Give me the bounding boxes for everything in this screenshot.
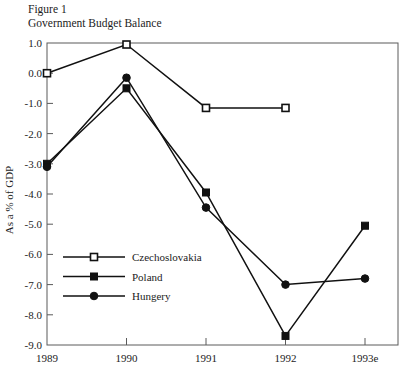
y-tick-label: -3.0 <box>25 158 43 170</box>
chart-legend: CzechoslovakiaPolandHungery <box>63 251 202 302</box>
y-tick-label: -5.0 <box>25 218 43 230</box>
marker-filled-square <box>91 273 98 280</box>
y-axis-title-label: As a % of GDP <box>3 166 15 234</box>
legend-label: Poland <box>132 271 163 283</box>
x-tick-label: 1992 <box>275 352 297 364</box>
x-tick-label: 1990 <box>116 352 139 364</box>
line-chart: 1.00.0-1.0-2.0-3.0-4.0-5.0-6.0-7.0-8.0-9… <box>0 0 405 375</box>
x-axis-ticks: 19891990199119921993e <box>36 338 379 364</box>
marker-filled-square <box>362 222 369 229</box>
marker-filled-circle <box>202 204 210 212</box>
series-line <box>47 45 286 108</box>
marker-filled-circle <box>282 281 290 289</box>
x-tick-label: 1993e <box>352 352 379 364</box>
y-axis-title: As a % of GDP <box>3 166 15 234</box>
marker-filled-circle <box>90 292 98 300</box>
legend-item-hungery: Hungery <box>63 290 171 302</box>
marker-open-square <box>203 104 210 111</box>
legend-item-poland: Poland <box>63 271 163 283</box>
y-tick-label: -2.0 <box>25 128 43 140</box>
y-tick-label: 0.0 <box>28 67 42 79</box>
figure-number: Figure 1 <box>28 2 162 16</box>
figure-caption: Figure 1 Government Budget Balance <box>28 2 162 30</box>
marker-filled-circle <box>43 163 51 171</box>
legend-item-czechoslovakia: Czechoslovakia <box>63 251 202 263</box>
plot-frame <box>47 43 398 345</box>
marker-filled-circle <box>123 74 131 82</box>
marker-open-square <box>91 254 98 261</box>
series-poland <box>44 85 369 340</box>
plot-border <box>47 43 398 345</box>
figure-title: Government Budget Balance <box>28 16 162 30</box>
marker-open-square <box>282 104 289 111</box>
y-tick-label: -9.0 <box>25 339 43 351</box>
marker-filled-circle <box>361 275 369 283</box>
series-czechoslovakia <box>44 41 290 111</box>
marker-open-square <box>123 41 130 48</box>
marker-filled-square <box>282 332 289 339</box>
y-tick-label: 1.0 <box>28 37 42 49</box>
marker-filled-square <box>203 189 210 196</box>
y-tick-label: -7.0 <box>25 279 43 291</box>
x-tick-label: 1991 <box>195 352 217 364</box>
marker-filled-square <box>123 85 130 92</box>
figure-container: Figure 1 Government Budget Balance 1.00.… <box>0 0 405 375</box>
y-tick-label: -1.0 <box>25 97 43 109</box>
legend-label: Hungery <box>132 290 171 302</box>
y-tick-label: -4.0 <box>25 188 43 200</box>
x-tick-label: 1989 <box>36 352 59 364</box>
legend-label: Czechoslovakia <box>132 251 202 263</box>
y-axis-ticks: 1.00.0-1.0-2.0-3.0-4.0-5.0-6.0-7.0-8.0-9… <box>25 37 53 351</box>
y-tick-label: -8.0 <box>25 309 43 321</box>
marker-open-square <box>44 70 51 77</box>
y-tick-label: -6.0 <box>25 248 43 260</box>
